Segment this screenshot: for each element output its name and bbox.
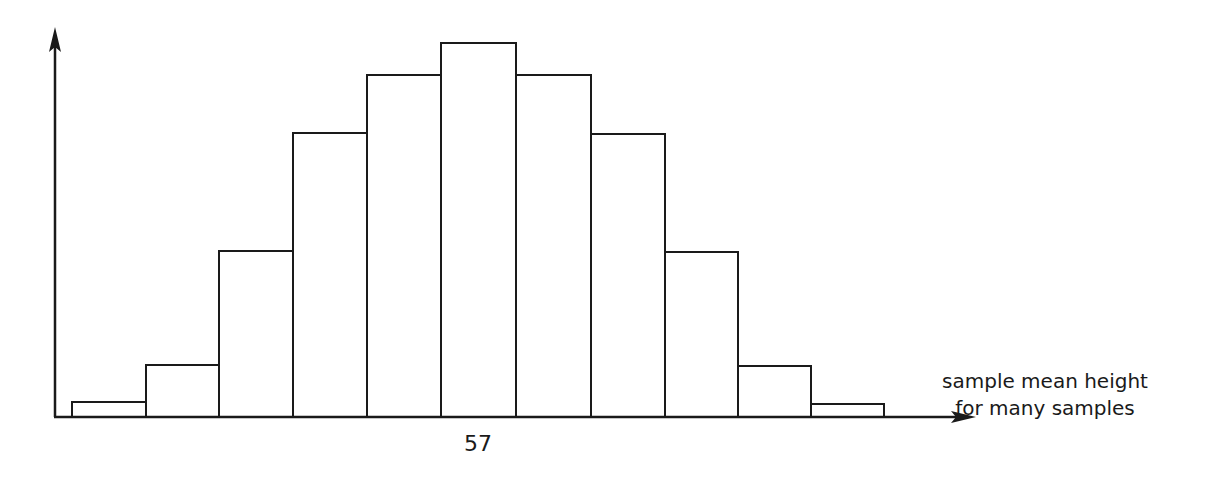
histogram-bar [72, 402, 146, 417]
histogram-bar [367, 75, 441, 417]
histogram-bars [72, 43, 884, 417]
histogram-bar [811, 404, 884, 417]
x-axis-label-line1: sample mean height [920, 368, 1170, 395]
histogram-bar [591, 134, 665, 417]
histogram-bar [219, 251, 293, 417]
center-tick-label: 57 [448, 430, 508, 457]
histogram-bar [516, 75, 591, 417]
histogram-bar [293, 133, 367, 417]
histogram-bar [665, 252, 738, 417]
histogram-bar [738, 366, 811, 417]
histogram-bar [441, 43, 516, 417]
histogram-bar [146, 365, 219, 417]
x-axis-label-line2: for many samples [920, 395, 1170, 422]
